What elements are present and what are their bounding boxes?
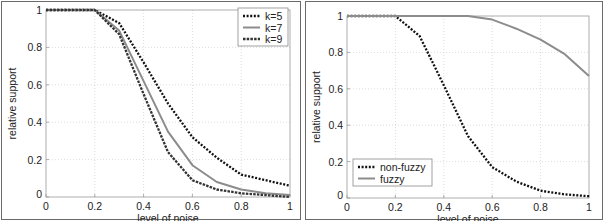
y-tick-label: 0.2	[27, 154, 42, 166]
y-tick-label: 0.4	[27, 116, 42, 128]
y-tick-label: 0.2	[328, 156, 343, 168]
legend-entry-label: fuzzy	[380, 173, 405, 185]
x-tick-label: 1	[586, 201, 592, 213]
chart-panel-k-values: 00.20.40.60.8100.20.40.60.81level of noi…	[1, 1, 301, 220]
x-tick-label: 0.2	[388, 201, 403, 213]
y-tick-label: 0.4	[328, 119, 343, 131]
series-line-fuzzy	[347, 16, 589, 76]
legend-entry-label: k=5	[265, 10, 282, 22]
x-tick-label: 0.4	[136, 200, 151, 212]
x-tick-label: 0.8	[533, 201, 548, 213]
x-tick-label: 0	[344, 201, 350, 213]
y-tick-label: 0.6	[27, 79, 42, 91]
x-tick-label: 0.4	[436, 201, 451, 213]
x-axis-label: level of noise	[437, 213, 498, 221]
y-tick-label: 0	[337, 189, 343, 201]
y-tick-label: 0.6	[328, 83, 343, 95]
legend-entry-label: k=7	[265, 22, 282, 34]
chart-panel-fuzzy-comparison: 00.20.40.60.8100.20.40.60.81level of noi…	[305, 1, 603, 220]
x-tick-label: 0	[43, 200, 49, 212]
line-chart-k-values: 00.20.40.60.8100.20.40.60.81level of noi…	[2, 2, 302, 221]
legend: k=5k=7k=9	[238, 8, 288, 46]
y-tick-label: 0.8	[27, 41, 42, 53]
legend: non-fuzzyfuzzy	[353, 159, 432, 186]
line-chart-fuzzy-comparison: 00.20.40.60.8100.20.40.60.81level of noi…	[306, 2, 604, 221]
x-tick-label: 0.2	[87, 200, 102, 212]
y-axis-label: relative support	[6, 68, 18, 140]
x-axis-label: level of noise	[137, 212, 198, 221]
y-tick-label: 1	[337, 10, 343, 22]
y-axis-label: relative support	[310, 71, 322, 143]
x-tick-label: 0.6	[185, 200, 200, 212]
legend-entry-label: k=9	[265, 33, 282, 45]
x-tick-label: 0.6	[485, 201, 500, 213]
y-tick-label: 0	[36, 188, 42, 200]
y-tick-label: 1	[36, 4, 42, 16]
legend-entry-label: non-fuzzy	[380, 161, 426, 173]
x-tick-label: 0.8	[234, 200, 249, 212]
y-tick-label: 0.8	[328, 46, 343, 58]
x-tick-label: 1	[287, 200, 293, 212]
